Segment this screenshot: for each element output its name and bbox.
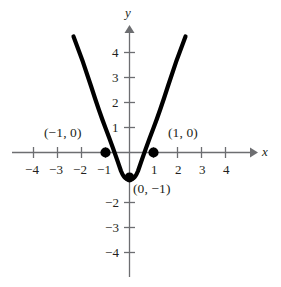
y-tick-label--3: −3: [105, 221, 119, 234]
x-axis: [12, 148, 258, 158]
x-tick-label--1: −1: [97, 163, 111, 176]
x-tick-label-3: 3: [199, 163, 206, 176]
point-left-root: [100, 147, 110, 157]
x-tick-label--2: −2: [73, 163, 87, 176]
y-tick-label--2: −2: [105, 196, 119, 209]
x-tick-label--4: −4: [25, 163, 39, 176]
annotation-vertex: (0, −1): [133, 182, 171, 196]
annotation-left-root: (−1, 0): [44, 126, 82, 140]
y-tick-label--4: −4: [105, 246, 119, 259]
coordinate-plane: [0, 0, 281, 287]
point-right-root: [148, 147, 158, 157]
y-tick-label-4: 4: [112, 46, 119, 59]
x-axis-label: x: [262, 145, 268, 158]
x-tick-label-2: 2: [175, 163, 182, 176]
x-tick-label-4: 4: [223, 163, 230, 176]
y-axis-label: y: [125, 6, 131, 19]
graph-figure: −4 −3 −2 −1 1 2 3 4 4 3 2 1 −2 −3 −4 x y…: [0, 0, 281, 287]
y-tick-label-1: 1: [112, 121, 119, 134]
y-tick-label-3: 3: [112, 71, 119, 84]
y-axis: [125, 25, 135, 277]
x-tick-label--3: −3: [49, 163, 63, 176]
annotation-right-root: (1, 0): [168, 126, 198, 140]
y-tick-label-2: 2: [112, 96, 119, 109]
x-tick-label-1: 1: [151, 163, 158, 176]
